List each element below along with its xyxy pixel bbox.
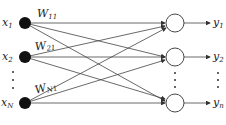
output-nodes <box>166 14 184 112</box>
neural-network-diagram: x1 x2 xN W11 W21 WN1 y1 y2 yn <box>0 0 226 125</box>
weight-label-w11: W11 <box>37 8 57 21</box>
output-node-1 <box>166 14 184 32</box>
input-node-2 <box>19 51 31 63</box>
input-node-n <box>19 97 31 109</box>
input-label-x2: x2 <box>2 51 13 64</box>
weight-label-w21: W21 <box>34 39 56 55</box>
output-node-2 <box>166 48 184 66</box>
output-label-y1: y1 <box>213 17 224 30</box>
output-label-yn: yn <box>213 97 224 110</box>
input-label-x1: x1 <box>2 17 13 30</box>
input-node-1 <box>19 17 31 29</box>
input-label-xn: xN <box>1 97 13 110</box>
input-nodes <box>19 17 31 109</box>
network-graph <box>0 0 226 125</box>
output-node-n <box>166 94 184 112</box>
output-label-y2: y2 <box>213 51 224 64</box>
